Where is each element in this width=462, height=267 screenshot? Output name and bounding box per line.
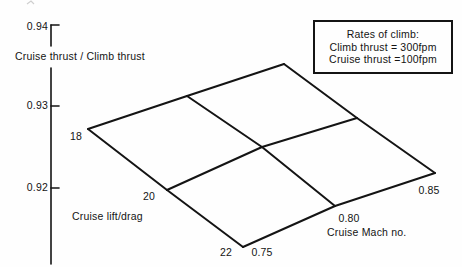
liftdrag-tick-20: 20 (139, 191, 159, 202)
mach-tick-085: 0.85 (414, 185, 444, 196)
note-line-3: Cruise thrust =100fpm (315, 53, 451, 66)
rates-of-climb-note: Rates of climb: Climb thrust = 300fpm Cr… (313, 20, 453, 74)
mach-axis-label: Cruise Mach no. (327, 227, 406, 238)
note-line-1: Rates of climb: (315, 28, 451, 41)
note-line-2: Climb thrust = 300fpm (315, 41, 451, 54)
scan-artifact (27, 1, 34, 4)
mach-tick-075: 0.75 (247, 247, 277, 258)
liftdrag-tick-22: 22 (216, 247, 236, 258)
y-tick-092: 0.92 (18, 182, 48, 193)
y-axis-label: Cruise thrust / Climb thrust (13, 51, 147, 62)
y-tick-093: 0.93 (18, 100, 48, 111)
liftdrag-tick-18: 18 (62, 131, 82, 142)
liftdrag-axis-label: Cruise lift/drag (72, 211, 143, 222)
y-tick-094: 0.94 (18, 21, 48, 32)
mach-tick-080: 0.80 (334, 213, 364, 224)
carpet-plot-figure: 0.94 0.93 0.92 Cruise thrust / Climb thr… (0, 0, 462, 267)
